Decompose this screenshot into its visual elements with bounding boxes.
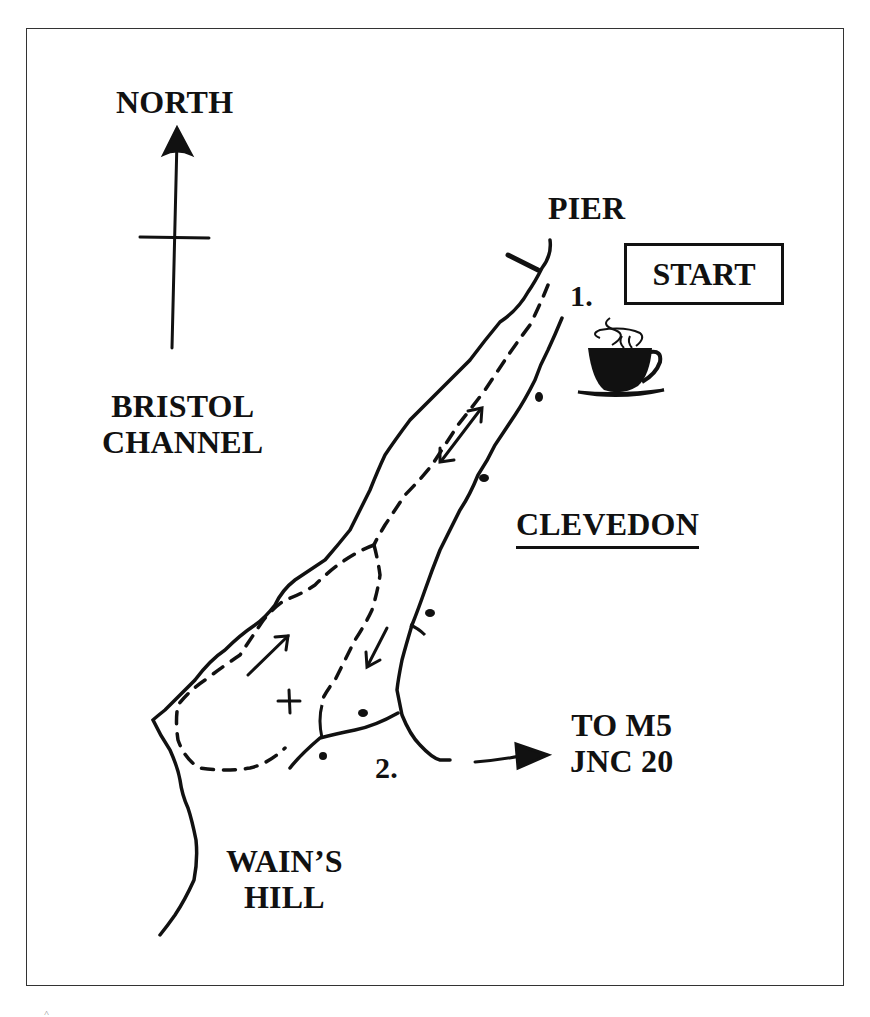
pier-label: PIER [548, 190, 625, 226]
wains-hill-label: WAIN’S HILL [226, 843, 343, 915]
bristol-channel-line1: BRISTOL [102, 388, 263, 424]
clevedon-label: CLEVEDON [516, 506, 699, 549]
bristol-channel-line2: CHANNEL [102, 424, 263, 460]
m5-junction-label: TO M5 JNC 20 [570, 707, 673, 779]
waypoint-1-label: 1. [570, 278, 593, 314]
start-marker: START [624, 243, 784, 305]
pier [508, 255, 538, 270]
bristol-channel-label: BRISTOL CHANNEL [102, 388, 263, 460]
track-spur [320, 705, 322, 738]
wains-hill-line1: WAIN’S [226, 843, 343, 879]
scan-mark: ˄ [44, 1008, 49, 1017]
cafe-cup-icon [578, 318, 664, 396]
wains-hill-line2: HILL [226, 879, 343, 915]
north-arrow-icon [140, 127, 209, 348]
route-map-drawing [0, 0, 870, 1017]
walking-route [177, 285, 549, 770]
summit-cross-icon [278, 690, 300, 713]
m5-line1: TO M5 [570, 707, 673, 743]
m5-line2: JNC 20 [570, 743, 673, 779]
north-label: NORTH [116, 84, 233, 120]
start-label: START [652, 256, 755, 293]
waypoint-2-label: 2. [375, 750, 398, 786]
coastline [153, 240, 550, 935]
